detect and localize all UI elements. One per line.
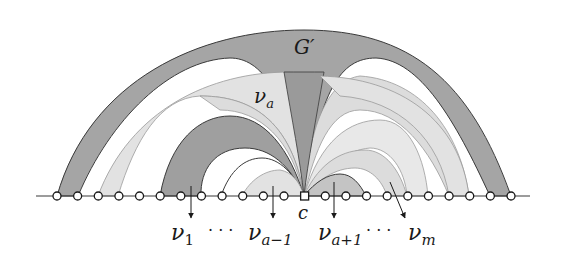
spine-vertex — [445, 192, 453, 200]
spine-vertex — [466, 192, 474, 200]
spine-vertex — [197, 192, 205, 200]
spine-vertices — [53, 192, 515, 200]
label-nu-a-minus-1: νa−1 — [248, 220, 292, 249]
spine-vertex — [136, 192, 144, 200]
spine-vertex — [218, 192, 226, 200]
spine-vertex — [53, 192, 61, 200]
spine-vertex — [321, 192, 329, 200]
spine-vertex — [507, 192, 515, 200]
spine-vertex — [486, 192, 494, 200]
spine-vertex — [239, 192, 247, 200]
spine-vertex — [94, 192, 102, 200]
label-nu-a-plus-1: νa+1 — [318, 220, 362, 249]
spine-vertex — [342, 192, 350, 200]
label-dots-right: · · · — [366, 221, 391, 240]
spine-vertex — [363, 192, 371, 200]
spine-vertex — [259, 192, 267, 200]
label-cut-vertex-c: c — [298, 202, 308, 223]
spine-vertex — [74, 192, 82, 200]
label-nu-1: ν1 — [171, 220, 194, 249]
nested-arc-diagram: G′ νa c ν1 · · · νa−1 νa+1 · · · νm — [0, 0, 561, 259]
spine-vertex — [424, 192, 432, 200]
cut-vertex-c — [301, 192, 309, 200]
spine-vertex — [404, 192, 412, 200]
label-nu-m: νm — [408, 220, 436, 249]
label-g-prime: G′ — [294, 35, 315, 59]
spine-vertex — [280, 192, 288, 200]
spine-vertex — [177, 192, 185, 200]
spine-vertex — [115, 192, 123, 200]
spine-vertex — [156, 192, 164, 200]
label-dots-left: · · · — [208, 221, 233, 240]
spine-vertex — [383, 192, 391, 200]
